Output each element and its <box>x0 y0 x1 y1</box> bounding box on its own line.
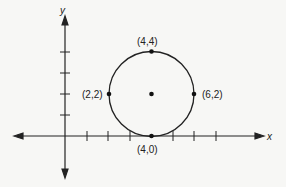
point-4-4 <box>149 49 154 54</box>
coordinate-diagram: x y (4,4) (2,2) (6,2) (4,0) <box>0 0 286 187</box>
label-2-2: (2,2) <box>82 89 103 100</box>
y-axis-up-arrow-icon <box>62 16 68 25</box>
label-6-2: (6,2) <box>202 89 223 100</box>
point-2-2 <box>107 92 112 97</box>
x-axis-left-arrow-icon <box>14 133 23 139</box>
x-axis-label: x <box>266 131 273 142</box>
y-axis-down-arrow-icon <box>62 169 68 178</box>
label-4-4: (4,4) <box>137 36 158 47</box>
x-axis <box>14 133 264 139</box>
label-4-0: (4,0) <box>137 144 158 155</box>
points <box>107 49 197 138</box>
point-6-2 <box>192 92 197 97</box>
x-axis-right-arrow-icon <box>255 133 264 139</box>
point-4-0 <box>149 134 154 139</box>
point-center <box>149 92 154 97</box>
y-axis-label: y <box>59 5 66 16</box>
y-axis <box>62 16 68 178</box>
